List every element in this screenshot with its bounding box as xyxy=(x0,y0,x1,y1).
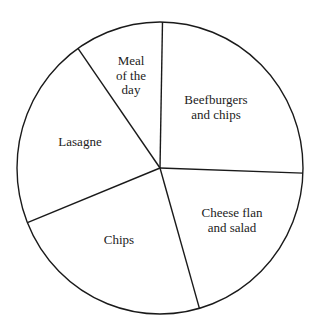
slice-label: Cheese flanand salad xyxy=(201,205,263,235)
slice-label: Chips xyxy=(104,232,134,247)
slice-label: Lasagne xyxy=(58,134,102,149)
pie-chart: Beefburgersand chipsCheese flanand salad… xyxy=(0,0,319,331)
slice-label: Beefburgersand chips xyxy=(184,92,247,122)
